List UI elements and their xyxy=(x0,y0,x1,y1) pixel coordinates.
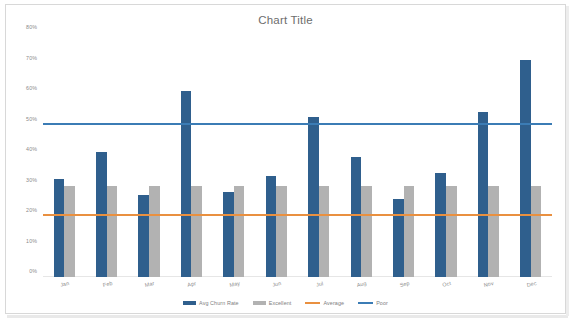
bar-avg-churn-rate xyxy=(393,199,404,277)
bar-group xyxy=(393,33,414,277)
legend-item-average[interactable]: Average xyxy=(305,300,344,306)
bar-avg-churn-rate xyxy=(223,192,234,277)
chart-frame: Chart Title 0%10%20%30%40%50%60%70%80% J… xyxy=(5,4,566,314)
legend-swatch-icon xyxy=(183,301,196,305)
chart-legend: Avg Churn RateExcellentAveragePoor xyxy=(6,300,565,306)
legend-item-label: Excellent xyxy=(269,300,292,306)
reference-line-poor xyxy=(43,123,552,125)
y-axis-tick-label: 0% xyxy=(29,268,37,274)
bar-avg-churn-rate xyxy=(54,179,65,277)
axis-baseline xyxy=(43,276,552,277)
bar-avg-churn-rate xyxy=(266,176,277,277)
x-axis-tick-label: Dec xyxy=(526,280,537,288)
legend-swatch-icon xyxy=(358,302,373,304)
x-axis-tick-label: Sep xyxy=(399,280,410,288)
bar-excellent xyxy=(361,186,372,278)
x-axis-tick-label: Jan xyxy=(60,280,70,288)
bar-group xyxy=(351,33,372,277)
plot-area: 0%10%20%30%40%50%60%70%80% xyxy=(43,33,552,277)
bar-group xyxy=(223,33,244,277)
bar-excellent xyxy=(64,186,75,278)
bar-excellent xyxy=(191,186,202,278)
bar-avg-churn-rate xyxy=(478,112,489,277)
y-axis-tick-label: 30% xyxy=(26,177,37,183)
bar-excellent xyxy=(446,186,457,278)
frame-shadow-bottom xyxy=(7,315,568,318)
bar-group xyxy=(181,33,202,277)
y-axis-tick-label: 80% xyxy=(26,24,37,30)
y-axis-tick-label: 40% xyxy=(26,146,37,152)
y-axis-tick-label: 60% xyxy=(26,85,37,91)
reference-line-average xyxy=(43,214,552,216)
bar-excellent xyxy=(404,186,415,278)
x-axis-tick-label: Feb xyxy=(102,280,113,288)
bar-avg-churn-rate xyxy=(181,91,192,277)
legend-swatch-icon xyxy=(253,301,266,305)
bar-excellent xyxy=(276,186,287,278)
y-axis-tick-label: 10% xyxy=(26,238,37,244)
legend-item-poor[interactable]: Poor xyxy=(358,300,388,306)
bar-excellent xyxy=(531,186,542,278)
x-axis-tick-label: Nov xyxy=(484,280,495,288)
bar-group xyxy=(520,33,541,277)
bar-excellent xyxy=(107,186,118,278)
legend-item-label: Avg Churn Rate xyxy=(199,300,239,306)
bar-group xyxy=(138,33,159,277)
bar-avg-churn-rate xyxy=(308,117,319,277)
bar-excellent xyxy=(234,186,245,278)
bar-group xyxy=(435,33,456,277)
y-axis-tick-label: 20% xyxy=(26,207,37,213)
bar-group xyxy=(478,33,499,277)
x-axis-tick-label: May xyxy=(229,280,241,288)
legend-item-label: Average xyxy=(323,300,344,306)
chart-title: Chart Title xyxy=(6,14,565,26)
x-axis-tick-label: Mar xyxy=(144,280,155,288)
x-axis-tick-label: Jun xyxy=(272,280,282,288)
bar-avg-churn-rate xyxy=(520,60,531,277)
legend-item-excellent[interactable]: Excellent xyxy=(253,300,292,306)
legend-item-avg-churn-rate[interactable]: Avg Churn Rate xyxy=(183,300,239,306)
y-axis-tick-label: 70% xyxy=(26,55,37,61)
bar-excellent xyxy=(488,186,499,278)
y-axis-tick-label: 50% xyxy=(26,116,37,122)
bar-excellent xyxy=(149,186,160,278)
bar-excellent xyxy=(319,186,330,278)
legend-swatch-icon xyxy=(305,302,320,304)
bar-group xyxy=(308,33,329,277)
bar-group xyxy=(266,33,287,277)
bar-avg-churn-rate xyxy=(351,157,362,277)
x-axis-tick-label: Apr xyxy=(187,280,197,288)
x-axis-tick-label: Aug xyxy=(356,280,367,288)
bar-avg-churn-rate xyxy=(435,173,446,277)
frame-shadow-right xyxy=(566,6,569,316)
x-axis-tick-label: Oct xyxy=(442,280,452,288)
x-axis-tick-label: Jul xyxy=(315,280,323,287)
legend-item-label: Poor xyxy=(376,300,388,306)
x-axis-tick-labels: JanFebMarAprMayJunJulAugSepOctNovDec xyxy=(43,279,552,299)
bar-avg-churn-rate xyxy=(138,195,149,277)
bar-group xyxy=(96,33,117,277)
bar-group xyxy=(54,33,75,277)
